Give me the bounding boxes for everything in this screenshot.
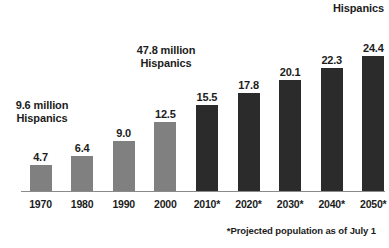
x-axis-line <box>21 191 385 192</box>
x-tick-2050: 2050* <box>349 198 389 210</box>
bar-2000: 12.5 <box>154 122 176 191</box>
bar-1980: 6.4 <box>71 156 93 191</box>
bar-2020: 17.8 <box>238 93 260 191</box>
bar-value-label: 6.4 <box>75 142 90 154</box>
bar-rect <box>196 105 218 191</box>
bar-rect <box>362 56 384 191</box>
bar-1970: 4.7 <box>30 165 52 191</box>
bar-rect <box>71 156 93 191</box>
bar-value-label: 4.7 <box>33 151 48 163</box>
bar-rect <box>113 141 135 191</box>
bar-value-label: 22.3 <box>321 54 342 66</box>
bar-value-label: 17.8 <box>238 79 259 91</box>
bar-value-label: 24.4 <box>363 42 384 54</box>
x-axis-tick-labels: 19701980199020002010*2020*2030*2040*2050… <box>0 198 389 214</box>
bar-2050: 24.4 <box>362 56 384 191</box>
plot-area: 4.76.49.012.515.517.820.122.324.4 <box>0 0 389 192</box>
bar-value-label: 15.5 <box>197 91 218 103</box>
bar-value-label: 9.0 <box>116 127 131 139</box>
bar-value-label: 20.1 <box>280 66 301 78</box>
bar-2040: 22.3 <box>321 68 343 191</box>
bar-rect <box>321 68 343 191</box>
bar-rect <box>238 93 260 191</box>
bar-2030: 20.1 <box>279 80 301 191</box>
hispanic-population-bar-chart: Hispanics 9.6 million Hispanics 47.8 mil… <box>0 0 389 248</box>
bar-2010: 15.5 <box>196 105 218 191</box>
footnote: *Projected population as of July 1 <box>0 225 389 236</box>
bar-rect <box>30 165 52 191</box>
bar-1990: 9.0 <box>113 141 135 191</box>
bar-value-label: 12.5 <box>155 108 176 120</box>
bar-rect <box>279 80 301 191</box>
bar-rect <box>154 122 176 191</box>
